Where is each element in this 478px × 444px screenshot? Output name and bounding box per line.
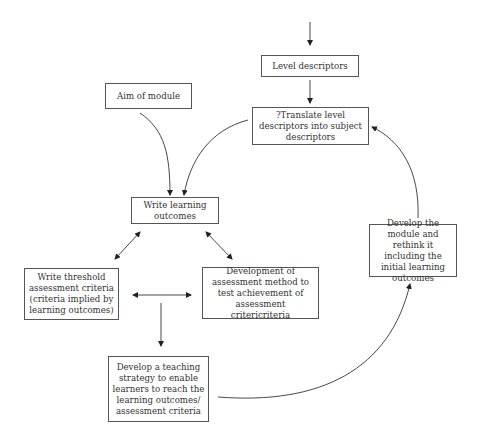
node-develop-module: Develop the module and rethink it includ… bbox=[369, 224, 457, 277]
flow-diagram: Level descriptors Aim of module ?Transla… bbox=[0, 0, 478, 444]
node-translate-descriptors: ?Translate level descriptors into subjec… bbox=[252, 107, 369, 145]
node-threshold-criteria: Write threshold assessment criteria (cri… bbox=[24, 268, 119, 320]
node-level-descriptors: Level descriptors bbox=[261, 55, 359, 77]
arrow-outcomes-threshold bbox=[115, 232, 140, 259]
arrow-develop-to-translate bbox=[372, 127, 418, 218]
arrow-outcomes-method bbox=[206, 232, 232, 259]
node-teaching-strategy: Develop a teaching strategy to enable le… bbox=[108, 356, 209, 422]
arrow-translate-to-outcomes bbox=[184, 120, 248, 195]
node-write-learning-outcomes: Write learning outcomes bbox=[131, 197, 219, 224]
node-aim-of-module: Aim of module bbox=[105, 83, 192, 109]
node-assessment-method: Development of assessment method to test… bbox=[202, 267, 319, 319]
arrow-aim-to-outcomes bbox=[140, 113, 170, 195]
